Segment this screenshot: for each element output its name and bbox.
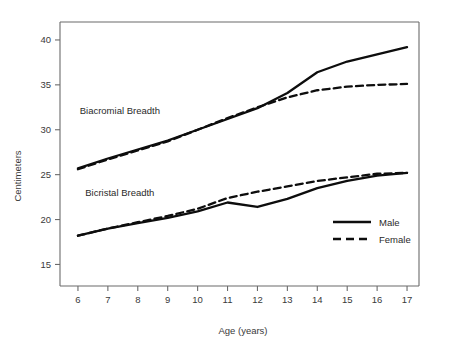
y-tick-label: 35 [40, 79, 51, 90]
chart-figure: 152025303540 67891011121314151617 Biacro… [0, 0, 450, 353]
x-tick-label: 13 [282, 294, 293, 305]
y-tick-label: 40 [40, 34, 51, 45]
x-tick-label: 7 [105, 294, 110, 305]
x-tick-label: 10 [192, 294, 203, 305]
x-tick-label: 6 [75, 294, 80, 305]
x-tick-label: 17 [402, 294, 413, 305]
x-tick-label: 8 [135, 294, 140, 305]
y-tick-label: 20 [40, 214, 51, 225]
growth-line-chart: 152025303540 67891011121314151617 Biacro… [0, 0, 450, 353]
legend-label-male[interactable]: Male [379, 217, 400, 228]
y-axis-title: Centimeters [12, 150, 23, 201]
x-tick-label: 11 [223, 294, 233, 305]
y-tick-label: 25 [40, 169, 51, 180]
y-tick-label: 15 [40, 259, 51, 270]
x-axis-title: Age (years) [218, 325, 267, 336]
y-tick-label: 30 [40, 124, 51, 135]
x-tick-label: 12 [252, 294, 263, 305]
series-annotation: Biacromial Breadth [80, 105, 160, 116]
x-tick-label: 16 [372, 294, 383, 305]
x-tick-label: 14 [312, 294, 323, 305]
series-annotation: Bicristal Breadth [85, 187, 154, 198]
x-tick-label: 9 [165, 294, 170, 305]
x-tick-label: 15 [342, 294, 353, 305]
legend-label-female[interactable]: Female [379, 234, 411, 245]
